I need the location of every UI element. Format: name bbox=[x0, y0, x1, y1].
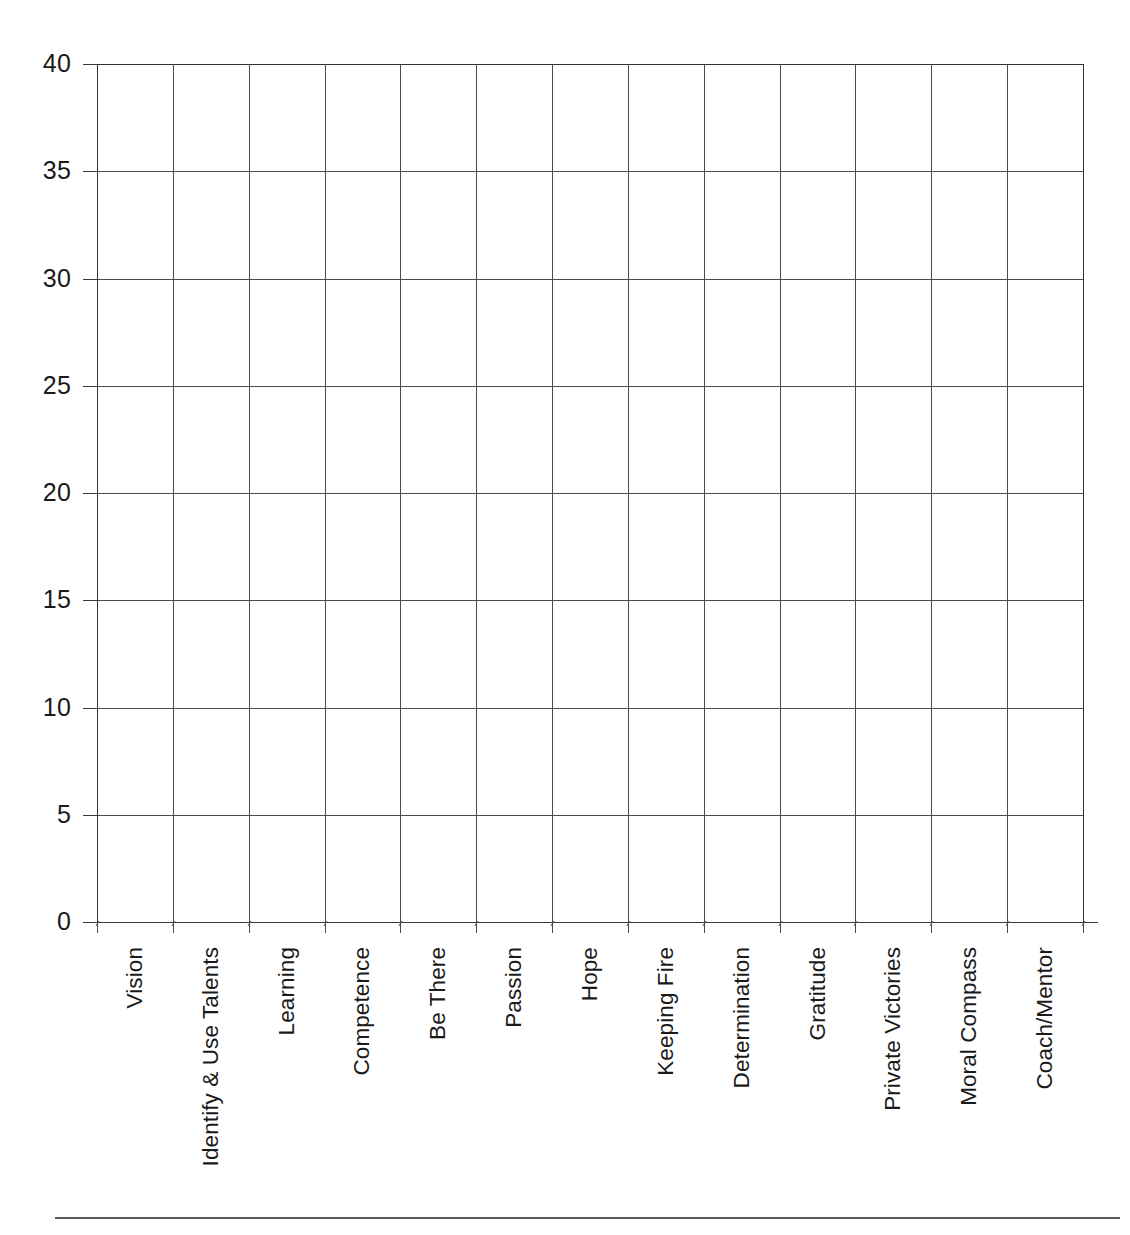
y-axis-tick-label: 35 bbox=[43, 158, 71, 183]
x-axis-tick-nub bbox=[778, 921, 788, 926]
x-axis-category-text: Vision bbox=[124, 947, 147, 1008]
y-axis-tick-label: 15 bbox=[43, 587, 71, 612]
gridline-vertical bbox=[1007, 64, 1008, 922]
y-axis-tick-label: 5 bbox=[57, 802, 71, 827]
y-axis-tick bbox=[83, 493, 97, 494]
y-axis-tick bbox=[83, 815, 97, 816]
x-axis-category-text: Gratitude bbox=[806, 947, 829, 1040]
y-axis-tick bbox=[83, 64, 97, 65]
gridline-horizontal bbox=[97, 600, 1083, 601]
x-axis-tick-nub bbox=[1006, 921, 1016, 926]
footer-rule bbox=[55, 1217, 1120, 1219]
gridline-horizontal bbox=[97, 815, 1083, 816]
x-axis-tick-nub bbox=[930, 921, 940, 926]
gridline-vertical bbox=[325, 64, 326, 922]
x-axis-tick-nub bbox=[854, 921, 864, 926]
x-axis-tick-nub bbox=[323, 921, 333, 926]
x-axis-category-text: Private Victories bbox=[882, 947, 905, 1111]
y-axis-tick-label: 0 bbox=[57, 909, 71, 934]
x-axis-category-text: Coach/Mentor bbox=[1034, 947, 1057, 1090]
gridline-horizontal bbox=[97, 386, 1083, 387]
y-axis-tick-label: 10 bbox=[43, 695, 71, 720]
y-axis-tick bbox=[83, 279, 97, 280]
x-axis-tick-nub bbox=[399, 921, 409, 926]
x-axis-tick-nub bbox=[551, 921, 561, 926]
x-axis-category-text: Hope bbox=[579, 947, 602, 1001]
y-axis-tick bbox=[83, 171, 97, 172]
gridline-vertical bbox=[552, 64, 553, 922]
gridline-vertical bbox=[249, 64, 250, 922]
y-axis-tick bbox=[83, 708, 97, 709]
gridline-vertical bbox=[704, 64, 705, 922]
x-axis-tick-nub bbox=[247, 921, 257, 926]
x-axis-tick-nub bbox=[702, 921, 712, 926]
x-axis-tick-nub bbox=[171, 921, 181, 926]
gridline-horizontal bbox=[97, 279, 1083, 280]
x-axis-category-text: Learning bbox=[275, 947, 298, 1035]
y-axis-tick-label: 25 bbox=[43, 373, 71, 398]
y-axis-tick-label: 40 bbox=[43, 51, 71, 76]
gridline-horizontal bbox=[97, 64, 1083, 65]
gridline-vertical bbox=[97, 64, 98, 922]
x-axis-category-text: Competence bbox=[351, 947, 374, 1076]
gridline-vertical bbox=[931, 64, 932, 922]
x-axis-category-text: Determination bbox=[730, 947, 753, 1088]
gridline-vertical bbox=[1083, 64, 1084, 922]
gridline-horizontal bbox=[97, 171, 1083, 172]
x-axis-tick-nub bbox=[475, 921, 485, 926]
gridline-horizontal bbox=[97, 708, 1083, 709]
x-axis-category-text: Moral Compass bbox=[958, 947, 981, 1106]
x-axis-category-text: Keeping Fire bbox=[655, 947, 678, 1076]
y-axis-tick-label: 30 bbox=[43, 266, 71, 291]
y-axis-tick bbox=[83, 386, 97, 387]
gridline-vertical bbox=[173, 64, 174, 922]
y-axis-tick-label: 20 bbox=[43, 480, 71, 505]
gridline-vertical bbox=[400, 64, 401, 922]
plot-area bbox=[97, 64, 1083, 922]
x-axis-tick-nub bbox=[626, 921, 636, 926]
x-axis-category-text: Passion bbox=[503, 947, 526, 1028]
y-axis-tick bbox=[83, 922, 97, 923]
chart-figure: 0510152025303540 VisionIdentify & Use Ta… bbox=[0, 0, 1130, 1235]
gridline-vertical bbox=[476, 64, 477, 922]
x-axis-line bbox=[83, 922, 1098, 923]
gridline-vertical bbox=[628, 64, 629, 922]
x-axis-category-text: Be There bbox=[427, 947, 450, 1040]
gridline-horizontal bbox=[97, 493, 1083, 494]
gridline-vertical bbox=[855, 64, 856, 922]
y-axis-tick bbox=[83, 600, 97, 601]
x-axis-category-text: Identify & Use Talents bbox=[200, 947, 223, 1166]
x-axis-tick-nub bbox=[95, 921, 105, 926]
gridline-vertical bbox=[780, 64, 781, 922]
x-axis-tick-nub bbox=[1081, 921, 1091, 926]
